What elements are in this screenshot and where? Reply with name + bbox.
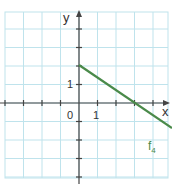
origin-label: 0 (67, 109, 73, 121)
coordinate-plot: y x 0 1 1 f4 (0, 0, 172, 186)
y-tick-label-1: 1 (67, 78, 73, 90)
grid-border (5, 12, 168, 178)
y-axis-label: y (63, 10, 70, 25)
grid (5, 12, 168, 178)
x-axis-label: x (162, 104, 169, 119)
x-tick-label-1: 1 (93, 109, 99, 121)
y-axis-arrow-icon (76, 10, 82, 17)
function-label: f4 (148, 139, 156, 155)
